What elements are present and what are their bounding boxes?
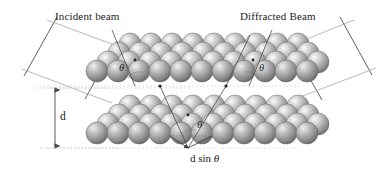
scatter-point-top-plane-mid <box>158 84 161 87</box>
path-difference-prefix: d sin <box>190 152 214 164</box>
diagram-canvas <box>0 0 377 174</box>
scatter-point-top-plane-right <box>224 84 227 87</box>
scatter-point-top-right <box>252 59 255 62</box>
path-difference-label: d sin θ <box>190 153 219 164</box>
bragg-diffraction-figure: Incident beam Diffracted Beam d d sin θ … <box>0 0 377 174</box>
lattice-plane-top <box>86 33 329 82</box>
scatter-point-bottom <box>187 114 190 117</box>
theta-lower-plane-label: θ <box>197 120 202 131</box>
scatter-point-top-left <box>134 59 137 62</box>
path-difference-theta: θ <box>214 152 219 164</box>
theta-incident-label: θ <box>119 63 124 74</box>
lattice-plane-bottom <box>86 95 329 144</box>
incident-beam-label: Incident beam <box>55 11 120 22</box>
theta-diffracted-label: θ <box>259 63 264 74</box>
incident-wavefront-front <box>24 17 57 76</box>
diffracted-wavefront-back <box>340 17 372 75</box>
diffracted-beam-label: Diffracted Beam <box>240 11 316 22</box>
interplanar-spacing-label: d <box>60 111 66 123</box>
